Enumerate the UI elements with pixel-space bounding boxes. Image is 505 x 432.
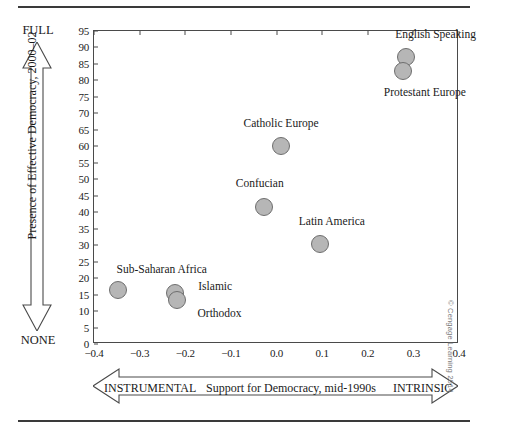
y-tick-label: 60 [78,141,94,152]
y-tick-mark [94,113,98,114]
copyright-credit: © Cengage Learning 2014 [446,300,455,410]
y-tick-mark [94,80,98,81]
data-point-label: English Speaking [395,30,476,42]
x-tick-mark [367,31,368,35]
y-tick-label: 90 [78,42,94,53]
y-tick-mark [94,311,98,312]
y-tick-mark [94,129,98,130]
data-point-label: Orthodox [198,308,242,320]
data-point-label: Sub-Saharan Africa [117,264,207,276]
x-axis-right-label: INTRINSIC [393,381,452,396]
y-tick-label: 35 [78,223,94,234]
y-tick-label: 85 [78,58,94,69]
y-axis-bottom-label: NONE [8,333,68,348]
y-tick-label: 75 [78,91,94,102]
y-tick-mark [94,63,98,64]
y-tick-mark [94,228,98,229]
x-tick-mark [139,31,140,35]
y-tick-mark [94,212,98,213]
x-tick-label: 0.1 [316,342,329,359]
y-tick-label: 95 [78,26,94,37]
y-tick-label: 80 [78,75,94,86]
y-tick-mark [94,245,98,246]
y-tick-label: 70 [78,108,94,119]
y-tick-mark [94,96,98,97]
plot-area: 05101520253035404550556065707580859095 −… [93,30,458,343]
y-tick-label: 15 [78,289,94,300]
x-tick-label: 0.0 [270,342,283,359]
x-tick-mark [322,31,323,35]
data-point-marker[interactable] [394,62,412,80]
y-tick-mark [94,327,98,328]
data-point-label: Islamic [198,281,232,293]
figure-scatter-democracy: FULL NONE Presence of Effective Democrac… [0,0,505,432]
bottom-rule [18,420,470,422]
data-point-label: Latin America [299,216,365,228]
data-point-marker[interactable] [311,235,329,253]
data-point-label: Protestant Europe [384,87,466,99]
y-tick-label: 5 [84,322,94,333]
data-point-label: Catholic Europe [244,119,319,131]
data-point-marker[interactable] [255,198,273,216]
y-tick-label: 45 [78,190,94,201]
y-tick-label: 40 [78,207,94,218]
x-axis-title: Support for Democracy, mid-1990s [206,381,376,396]
x-tick-label: 0.2 [361,342,374,359]
x-tick-label: −0.2 [176,342,195,359]
y-tick-mark [94,294,98,295]
y-tick-label: 25 [78,256,94,267]
y-axis-title: Presence of Effective Democracy, 2000–02 [25,0,40,276]
y-tick-mark [94,261,98,262]
y-tick-label: 55 [78,157,94,168]
x-axis-left-label: INSTRUMENTAL [104,381,196,396]
y-tick-label: 50 [78,174,94,185]
data-point-marker[interactable] [168,291,186,309]
y-tick-label: 20 [78,273,94,284]
data-point-marker[interactable] [272,137,290,155]
y-tick-mark [94,278,98,279]
data-point-marker[interactable] [109,281,127,299]
x-tick-mark [230,31,231,35]
x-tick-mark [94,31,95,35]
x-tick-label: −0.3 [130,342,149,359]
y-tick-label: 10 [78,306,94,317]
y-tick-mark [94,179,98,180]
x-tick-label: −0.1 [221,342,240,359]
y-tick-mark [94,162,98,163]
y-tick-label: 30 [78,240,94,251]
x-tick-mark [185,31,186,35]
x-tick-label: −0.4 [84,342,103,359]
y-tick-mark [94,31,98,32]
y-tick-mark [94,47,98,48]
y-tick-mark [94,195,98,196]
data-point-label: Confucian [236,179,284,191]
x-tick-mark [276,31,277,35]
x-tick-label: 0.3 [407,342,420,359]
y-tick-mark [94,146,98,147]
y-tick-label: 65 [78,124,94,135]
top-rule [18,6,470,8]
